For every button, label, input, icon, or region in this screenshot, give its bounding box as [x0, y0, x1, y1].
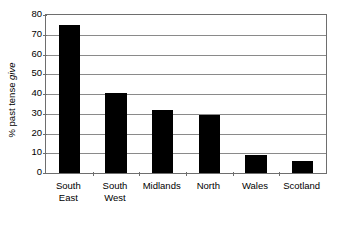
- y-axis-tick-label: 30: [14, 108, 42, 118]
- x-axis-category-label: North: [185, 180, 232, 192]
- y-tick-mark-60: [43, 55, 47, 56]
- y-axis-tick-label: 10: [14, 148, 42, 158]
- x-tick-mark: [93, 172, 94, 176]
- bar-scotland: [292, 161, 313, 173]
- x-axis-category-label-line: South: [92, 180, 139, 192]
- y-axis-tick-label: 70: [14, 29, 42, 39]
- y-axis-tick-label: 40: [14, 88, 42, 98]
- y-axis-tick-labels: 80706050403020100: [14, 0, 42, 228]
- x-axis-category-labels: SouthEastSouthWestMidlandsNorthWalesScot…: [45, 180, 327, 224]
- y-tick-mark-10: [43, 153, 47, 154]
- x-axis-category-label-line: Scotland: [278, 180, 325, 192]
- y-tick-mark-30: [43, 114, 47, 115]
- x-axis-category-label-line: South: [45, 180, 92, 192]
- plot-area: [45, 14, 327, 174]
- y-tick-mark-40: [43, 94, 47, 95]
- bar-south-west: [105, 93, 126, 173]
- x-axis-category-label-line: East: [45, 192, 92, 204]
- x-axis-category-label-line: Wales: [232, 180, 279, 192]
- y-axis-tick-label: 20: [14, 128, 42, 138]
- y-tick-mark-50: [43, 74, 47, 75]
- y-tick-mark-20: [43, 134, 47, 135]
- gridline-70: [46, 35, 326, 36]
- bar-north: [199, 115, 220, 173]
- x-axis-category-label-line: Midlands: [138, 180, 185, 192]
- gridline-40: [46, 94, 326, 95]
- chart-screenshot: % past tense give 80706050403020100 Sout…: [0, 0, 344, 228]
- x-tick-mark: [233, 172, 234, 176]
- x-axis-category-label: SouthEast: [45, 180, 92, 203]
- y-axis-tick-label: 50: [14, 69, 42, 79]
- x-tick-mark: [186, 172, 187, 176]
- x-axis-category-label: Midlands: [138, 180, 185, 192]
- gridline-10: [46, 153, 326, 154]
- x-tick-mark: [139, 172, 140, 176]
- gridline-30: [46, 114, 326, 115]
- y-tick-mark-70: [43, 35, 47, 36]
- y-tick-mark-80: [43, 15, 47, 16]
- x-axis-category-label-line: West: [92, 192, 139, 204]
- y-axis-tick-label: 80: [14, 9, 42, 19]
- y-tick-mark-0: [43, 173, 47, 174]
- bar-midlands: [152, 110, 173, 173]
- y-axis-tick-label: 0: [14, 167, 42, 177]
- gridline-60: [46, 55, 326, 56]
- bar-wales: [245, 155, 266, 173]
- x-axis-category-label-line: North: [185, 180, 232, 192]
- x-axis-category-label: SouthWest: [92, 180, 139, 203]
- bar-south-east: [59, 25, 80, 173]
- x-tick-mark: [279, 172, 280, 176]
- gridline-20: [46, 134, 326, 135]
- gridline-50: [46, 74, 326, 75]
- y-axis-tick-label: 60: [14, 49, 42, 59]
- x-axis-category-label: Scotland: [278, 180, 325, 192]
- x-axis-category-label: Wales: [232, 180, 279, 192]
